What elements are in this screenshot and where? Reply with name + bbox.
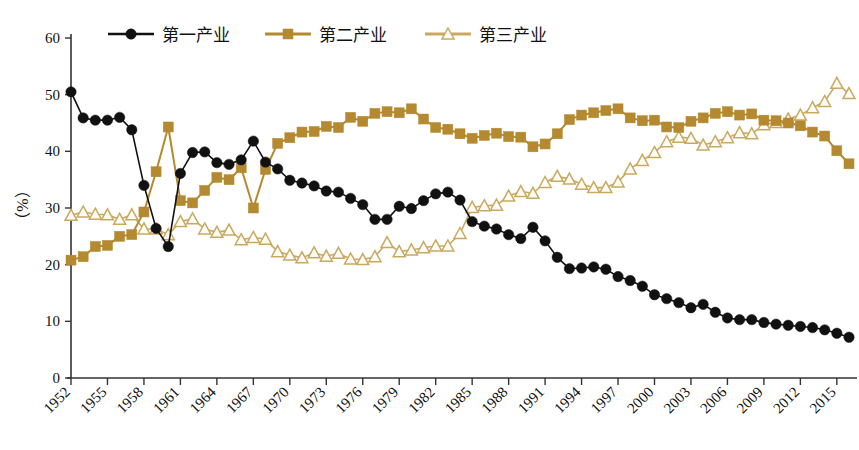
data-point [151,167,161,177]
data-point [200,185,210,195]
data-point [576,263,586,273]
data-point [577,110,587,120]
data-point [260,157,270,167]
y-axis-tick-label: 10 [45,313,60,329]
legend-label: 第二产业 [319,26,387,45]
data-point [747,109,757,119]
data-point [139,180,149,190]
data-point [443,187,453,197]
data-point [370,108,380,118]
data-point [285,133,295,143]
data-point [650,115,660,125]
data-point [637,116,647,126]
data-point [686,303,696,313]
data-point [516,132,526,142]
data-point [674,297,684,307]
data-point [102,115,112,125]
data-point [467,133,477,143]
y-axis-tick-label: 20 [45,257,60,273]
data-point [722,313,732,323]
data-point [528,142,538,152]
y-axis-title: （%） [14,182,31,227]
data-point [66,255,76,265]
data-point [346,112,356,122]
data-point [637,281,647,291]
data-point [795,121,805,131]
data-point [358,199,368,209]
data-point [358,116,368,126]
data-point [601,106,611,116]
y-axis-tick-label: 30 [45,200,60,216]
data-point [224,175,234,185]
data-point [443,124,453,134]
data-point [309,127,319,137]
data-point [783,118,793,128]
data-point [552,252,562,262]
data-point [273,138,283,148]
data-point [90,115,100,125]
data-point [528,222,538,232]
data-point [564,263,574,273]
data-point [613,104,623,114]
data-point [540,236,550,246]
data-point [710,108,720,118]
data-point [163,122,173,132]
data-point [127,230,137,240]
data-point [419,114,429,124]
data-point [759,115,769,125]
data-point [321,121,331,131]
data-point [820,131,830,141]
data-point [698,113,708,123]
data-point [406,203,416,213]
data-point [151,223,161,233]
data-point [710,307,720,317]
data-point [807,322,817,332]
data-point [455,195,465,205]
data-point [431,123,441,133]
data-point [394,201,404,211]
y-axis-tick-label: 50 [45,87,60,103]
data-point [102,240,112,250]
data-point [564,115,574,125]
line-chart: 第一产业第二产业第三产业 010203040506019521955195819… [0,0,859,450]
data-point [686,116,696,126]
data-point [601,264,611,274]
data-point [345,193,355,203]
data-point [163,241,173,251]
data-point [735,110,745,120]
data-point [90,242,100,252]
data-point [783,320,793,330]
data-point [674,123,684,133]
data-point [625,113,635,123]
data-point [662,122,672,132]
data-point [139,207,149,217]
data-point [382,214,392,224]
data-point [467,216,477,226]
data-point [212,172,222,182]
data-point [382,107,392,117]
legend-marker [283,29,293,39]
data-point [236,155,246,165]
data-point [844,332,854,342]
data-point [418,195,428,205]
data-point [248,136,258,146]
data-point [66,87,76,97]
data-point [272,164,282,174]
data-point [78,252,88,262]
data-point [589,108,599,118]
data-point [78,113,88,123]
data-point [759,317,769,327]
data-point [734,314,744,324]
data-point [819,325,829,335]
data-point [370,214,380,224]
data-point [224,159,234,169]
data-point [698,299,708,309]
data-point [491,128,501,138]
y-axis-tick-label: 0 [53,370,61,386]
data-point [504,132,514,142]
legend-label: 第一产业 [162,26,230,45]
data-point [516,233,526,243]
data-point [795,321,805,331]
data-point [115,231,125,241]
data-point [248,203,258,213]
